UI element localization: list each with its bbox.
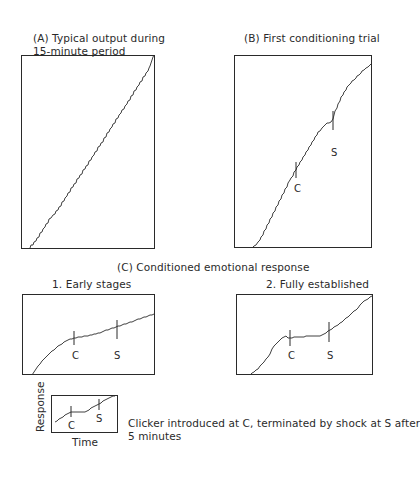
legend-c-label: C [68, 419, 75, 432]
panel-b-title: (B) First conditioning trial [244, 32, 380, 45]
panel-c2-c-label: C [288, 349, 295, 362]
panel-c1-s-label: S [114, 349, 120, 362]
panel-c2-title: 2. Fully established [266, 278, 369, 291]
legend-frame [52, 396, 118, 433]
panel-c1-c-label: C [72, 349, 79, 362]
panel-b-cumulative-record [252, 64, 371, 248]
panel-a-title-line2: 15-minute period [33, 45, 126, 58]
panel-b-c-label: C [294, 182, 301, 195]
legend-caption-line1: Clicker introduced at C, terminated by s… [128, 417, 420, 430]
panel-c1-frame [23, 295, 155, 375]
panel-b-frame [235, 56, 372, 248]
panel-a-title-line1: (A) Typical output during [33, 32, 165, 45]
panel-c1-cumulative-record [32, 314, 154, 375]
panel-c-title: (C) Conditioned emotional response [117, 261, 309, 274]
panel-b-s-label: S [331, 146, 337, 159]
panel-c1-title: 1. Early stages [52, 278, 131, 291]
legend-x-axis-label: Time [72, 436, 98, 449]
panel-c2-frame [237, 295, 373, 375]
panel-c2-s-label: S [327, 349, 333, 362]
panel-a-cumulative-record [30, 55, 154, 248]
panel-a-frame [22, 56, 155, 249]
legend-cumulative-record [55, 396, 115, 422]
legend-y-axis-label: Response [34, 382, 46, 432]
legend-s-label: S [96, 412, 102, 425]
legend-caption-line2: 5 minutes [128, 430, 181, 443]
panel-c2-cumulative-record [250, 296, 372, 375]
